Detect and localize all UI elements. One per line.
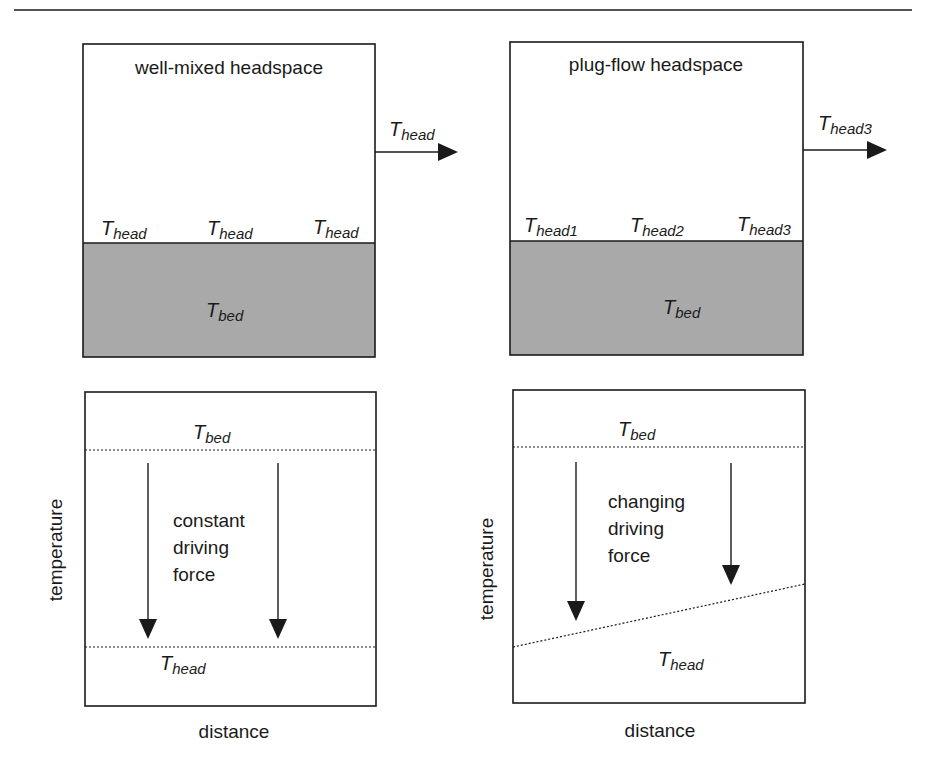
caption-line: constant — [173, 510, 246, 531]
surface-temp-label: Thead2 — [630, 214, 685, 239]
headspace-diagram: well-mixed headspace Thead Thead Thead T… — [0, 0, 926, 777]
caption-line: driving — [608, 518, 664, 539]
arrow-down-icon — [722, 565, 740, 585]
surface-temp-label: Thead1 — [524, 214, 578, 239]
head-temp-line-label: Thead — [658, 648, 704, 673]
caption-line: force — [608, 545, 650, 566]
panel-title: well-mixed headspace — [134, 57, 323, 78]
outlet-arrowhead-icon — [438, 143, 458, 161]
bed-temp-line-label: Tbed — [618, 418, 656, 443]
bed-temp-line-label: Tbed — [193, 421, 231, 446]
plot-frame — [85, 392, 376, 706]
arrow-down-icon — [139, 619, 157, 639]
arrow-down-icon — [567, 601, 585, 621]
constant-driving-force-plot: Tbed Thead constant driving force temper… — [45, 392, 376, 742]
x-axis-label: distance — [625, 720, 696, 741]
head-temp-line-label: Thead — [160, 652, 206, 677]
head-temp-line — [513, 584, 805, 647]
well-mixed-reactor: well-mixed headspace Thead Thead Thead T… — [83, 44, 458, 357]
y-axis-label: temperature — [45, 499, 66, 601]
caption-line: changing — [608, 491, 685, 512]
caption-line: driving — [173, 537, 229, 558]
plug-flow-reactor: plug-flow headspace Thead3 Thead1 Thead2… — [510, 42, 887, 355]
surface-temp-label: Thead — [313, 216, 359, 241]
arrow-down-icon — [269, 619, 287, 639]
surface-temp-label: Thead — [207, 217, 253, 242]
panel-title: plug-flow headspace — [569, 54, 743, 75]
surface-temp-label: Thead3 — [737, 213, 792, 238]
bed-region — [510, 241, 803, 355]
outlet-arrowhead-icon — [867, 141, 887, 159]
surface-temp-label: Thead — [101, 217, 147, 242]
y-axis-label: temperature — [476, 518, 497, 620]
outlet-temp-label: Thead3 — [818, 112, 873, 137]
outlet-temp-label: Thead — [389, 118, 435, 143]
changing-driving-force-plot: Tbed Thead changing driving force temper… — [476, 390, 805, 741]
bed-region — [83, 243, 375, 357]
x-axis-label: distance — [199, 721, 270, 742]
caption-line: force — [173, 564, 215, 585]
